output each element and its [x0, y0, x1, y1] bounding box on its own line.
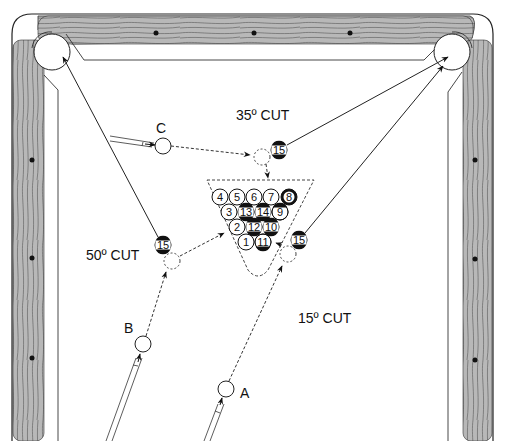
label-b: B	[124, 320, 133, 336]
cue-ball-b	[135, 336, 151, 352]
svg-text:8: 8	[286, 191, 292, 203]
label-15-cut: 15º CUT	[298, 310, 352, 326]
label-35-cut: 35º CUT	[236, 107, 290, 123]
diamond-icon	[473, 158, 478, 163]
diamond-icon	[252, 31, 257, 36]
diamond-icon	[30, 158, 35, 163]
ball-5: 5	[229, 189, 245, 205]
ball-10: 10	[263, 218, 279, 236]
ball-11: 11	[255, 234, 271, 251]
label-c: C	[156, 120, 166, 136]
diamond-icon	[348, 31, 353, 36]
svg-text:3: 3	[226, 206, 232, 218]
pocket-top-right	[434, 34, 470, 70]
ball-12: 12	[246, 218, 262, 236]
object-ball-15-a: 15	[291, 231, 307, 249]
ball-9: 9	[272, 203, 288, 220]
ball-1: 1	[238, 234, 254, 250]
svg-text:15: 15	[293, 234, 305, 246]
left-rail	[13, 40, 44, 441]
svg-text:11: 11	[257, 236, 268, 248]
object-ball-15-c: 15	[271, 141, 287, 159]
svg-text:1: 1	[243, 236, 249, 248]
svg-text:7: 7	[268, 191, 274, 203]
right-rail	[463, 40, 492, 441]
label-a: A	[240, 385, 250, 401]
ball-3: 3	[221, 204, 237, 220]
diamond-icon	[473, 257, 478, 262]
svg-text:2: 2	[234, 221, 240, 233]
diamond-icon	[30, 356, 35, 361]
svg-text:12: 12	[248, 221, 260, 233]
ball-4: 4	[212, 189, 228, 205]
cue-ball-c	[155, 138, 171, 154]
ball-6: 6	[246, 189, 262, 205]
label-50-cut: 50º CUT	[86, 247, 140, 263]
svg-text:13: 13	[240, 206, 252, 218]
pocket-top-left	[34, 34, 70, 70]
diamond-icon	[30, 256, 35, 261]
svg-text:15: 15	[157, 239, 169, 251]
svg-text:10: 10	[265, 221, 277, 233]
svg-text:6: 6	[251, 191, 257, 203]
ball-7: 7	[263, 189, 279, 205]
svg-text:9: 9	[277, 206, 283, 218]
svg-text:5: 5	[234, 191, 240, 203]
svg-text:4: 4	[217, 191, 223, 203]
ball-8: 8	[281, 189, 297, 205]
diamond-icon	[154, 31, 159, 36]
object-ball-15-b: 15	[155, 236, 171, 254]
svg-text:14: 14	[257, 206, 269, 218]
cue-ball-a	[218, 381, 234, 397]
svg-text:15: 15	[273, 144, 285, 156]
ball-2: 2	[229, 219, 245, 235]
pool-table-diagram: 4 5 6 7 8 3 13 14 9 2 12 10 1 11 15 C 35…	[0, 0, 505, 441]
diamond-icon	[473, 358, 478, 363]
